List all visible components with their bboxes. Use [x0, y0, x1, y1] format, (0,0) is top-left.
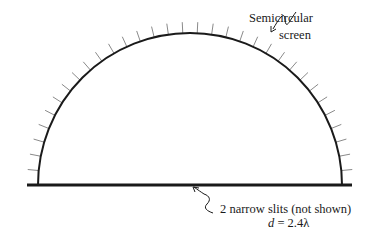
- slits-separation-label: d = 2.4λ: [268, 216, 309, 230]
- tick-mark: [336, 139, 347, 142]
- tick-mark: [72, 73, 80, 81]
- tick-mark: [137, 31, 141, 41]
- tick-mark: [240, 31, 244, 41]
- tick-mark: [45, 110, 55, 115]
- tick-mark: [253, 37, 258, 47]
- slits-label-line1: 2 narrow slits (not shown): [220, 202, 351, 216]
- tick-mark: [212, 24, 214, 35]
- tick-mark: [182, 22, 183, 33]
- tick-mark: [266, 44, 272, 54]
- tick-mark: [122, 37, 127, 47]
- tick-mark: [226, 27, 229, 38]
- tick-mark: [95, 52, 101, 61]
- separation-value: = 2.4λ: [274, 216, 309, 230]
- tick-mark: [325, 110, 335, 115]
- semicircular-screen-diagram: [0, 0, 370, 231]
- tick-mark: [28, 170, 39, 171]
- tick-mark: [309, 84, 318, 91]
- tick-mark: [197, 22, 198, 33]
- tick-mark: [109, 44, 115, 54]
- tick-mark: [339, 154, 350, 156]
- tick-mark: [53, 97, 62, 103]
- tick-mark: [331, 124, 341, 128]
- screen-label-line1: Semicircular: [249, 11, 313, 25]
- tick-mark: [34, 139, 45, 142]
- tick-mark: [62, 84, 71, 91]
- slits-pointer-arrow: [194, 187, 213, 213]
- tick-mark: [30, 154, 41, 156]
- tick-mark: [83, 62, 90, 70]
- screen-tick-marks: [28, 22, 353, 170]
- screen-label-line2: screen: [279, 28, 311, 42]
- tick-mark: [341, 170, 352, 171]
- tick-mark: [278, 52, 284, 61]
- tick-mark: [39, 124, 49, 128]
- semicircular-screen-arc: [38, 33, 342, 185]
- tick-mark: [300, 73, 308, 81]
- tick-mark: [152, 27, 155, 38]
- tick-mark: [290, 62, 297, 70]
- tick-mark: [167, 24, 169, 35]
- tick-mark: [318, 97, 327, 103]
